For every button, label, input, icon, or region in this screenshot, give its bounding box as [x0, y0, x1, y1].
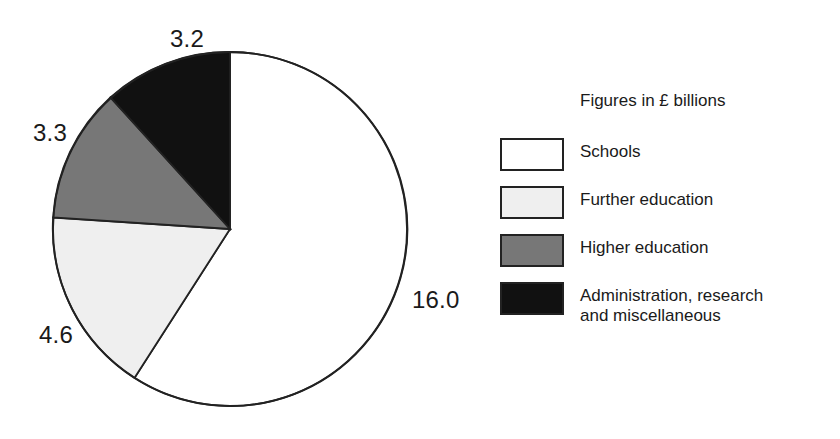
pie-chart-svg	[0, 0, 480, 439]
legend-swatch-administration	[500, 282, 564, 315]
legend-title: Figures in £ billions	[580, 92, 830, 111]
legend-item-administration[interactable]: Administration, research and miscellaneo…	[500, 281, 830, 327]
legend-swatch-schools	[500, 138, 564, 171]
legend-item-higher-education[interactable]: Higher education	[500, 233, 830, 267]
pie-chart-area: 3.2 3.3 4.6 16.0	[0, 0, 480, 439]
legend-label-schools: Schools	[580, 137, 640, 163]
legend-item-schools[interactable]: Schools	[500, 137, 830, 171]
legend-item-further-education[interactable]: Further education	[500, 185, 830, 219]
legend-label-further-education: Further education	[580, 185, 713, 211]
pie-value-label-higher-education: 3.3	[33, 121, 67, 145]
legend-swatch-higher-education	[500, 234, 564, 267]
pie-value-label-further-education: 4.6	[39, 323, 73, 347]
legend-label-higher-education: Higher education	[580, 233, 709, 259]
legend: Figures in £ billions Schools Further ed…	[500, 92, 830, 341]
pie-value-label-schools: 16.0	[412, 288, 460, 312]
pie-value-label-administration: 3.2	[170, 27, 204, 51]
pie-chart-figure: 3.2 3.3 4.6 16.0 Figures in £ billions S…	[0, 0, 840, 439]
legend-swatch-further-education	[500, 186, 564, 219]
legend-label-administration: Administration, research and miscellaneo…	[580, 281, 763, 327]
